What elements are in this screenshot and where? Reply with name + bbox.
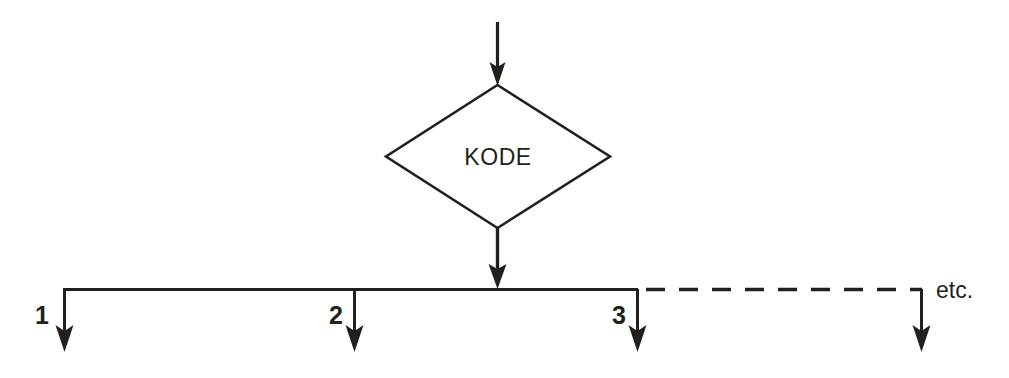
flowchart-svg: KODE 1 2 3 xyxy=(0,0,1009,378)
branch-2-label: 2 xyxy=(329,301,343,329)
continuation-label: etc. xyxy=(936,277,973,303)
flowchart-canvas: KODE 1 2 3 xyxy=(0,0,1009,378)
branch-2: 2 xyxy=(329,289,363,352)
branch-1-label: 1 xyxy=(35,301,49,329)
branch-3: 3 xyxy=(612,289,646,352)
decision-exit-arrow xyxy=(489,228,507,289)
branch-continuation xyxy=(913,289,931,352)
decision-diamond: KODE xyxy=(386,85,610,228)
branch-3-label: 3 xyxy=(612,301,626,329)
input-arrow xyxy=(490,22,506,86)
decision-label: KODE xyxy=(464,144,532,170)
branch-1: 1 xyxy=(35,289,73,352)
